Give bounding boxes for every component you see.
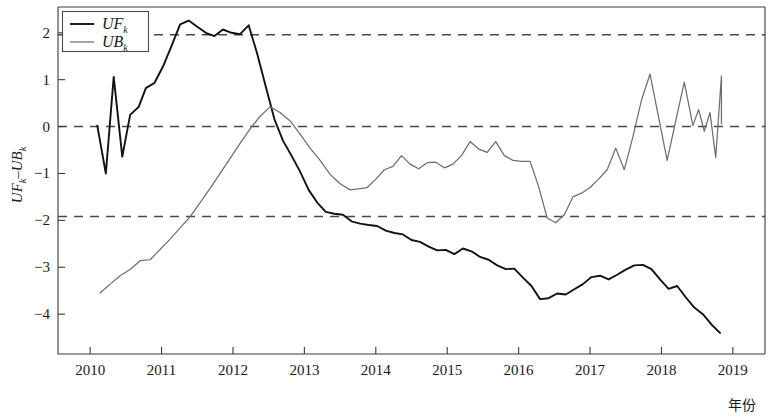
y-tick-label-−4: −4 [34, 306, 50, 322]
y-tick-label-−1: −1 [34, 165, 50, 181]
x-tick-label-2017: 2017 [575, 362, 606, 378]
y-tick-label-2: 2 [43, 25, 51, 41]
axes-group [58, 7, 765, 354]
x-axis-title-text: 年份 [728, 397, 756, 413]
y-tick-labels-group: 210−1−2−3−4 [34, 25, 50, 322]
y-tick-label-−2: −2 [34, 212, 50, 228]
x-tick-label-2010: 2010 [75, 362, 105, 378]
x-tick-label-2011: 2011 [147, 362, 176, 378]
x-tick-labels-group: 2010201120122013201420152016201720182019 [75, 362, 748, 378]
x-tick-label-2012: 2012 [218, 362, 248, 378]
y-axis-title-ub: UB [9, 151, 25, 171]
data-series-group [97, 21, 721, 333]
x-tick-label-2019: 2019 [718, 362, 748, 378]
y-tick-label-−3: −3 [34, 259, 50, 275]
chart-plot-area: 2010201120122013201420152016201720182019… [0, 0, 775, 419]
x-tick-label-2016: 2016 [504, 362, 535, 378]
axis-frame-left-bottom [58, 7, 765, 354]
x-axis-title: 年份 [728, 397, 756, 413]
x-tick-label-2015: 2015 [432, 362, 462, 378]
chart-legend: UFk UBk [63, 12, 149, 54]
mann-kendall-chart-figure: 2010201120122013201420152016201720182019… [0, 0, 775, 419]
y-tick-label-1: 1 [43, 72, 51, 88]
y-axis-title-uf: UF [9, 182, 25, 203]
svg-text:UFk–UBk: UFk–UBk [9, 146, 28, 203]
y-tick-label-0: 0 [43, 119, 51, 135]
axis-ticks-group [58, 33, 733, 354]
x-tick-label-2013: 2013 [289, 362, 319, 378]
x-tick-label-2014: 2014 [361, 362, 392, 378]
series-line-UB_k [100, 74, 721, 293]
y-axis-title-ub-sub: k [17, 146, 28, 151]
series-line-UF_k [97, 21, 720, 333]
y-axis-title: UFk–UBk [9, 146, 28, 203]
x-tick-label-2018: 2018 [646, 362, 676, 378]
